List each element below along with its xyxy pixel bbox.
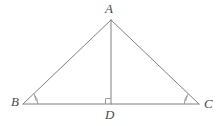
vertex-label-a: A [105, 2, 113, 15]
segment-ac [111, 20, 199, 104]
segment-ab [23, 20, 111, 104]
vertex-label-d: D [105, 108, 114, 121]
right-angle-square-d-icon [106, 99, 112, 105]
vertex-label-c: C [204, 97, 213, 110]
geometry-figure: A B C D [0, 0, 224, 126]
vertex-label-b: B [11, 95, 19, 108]
